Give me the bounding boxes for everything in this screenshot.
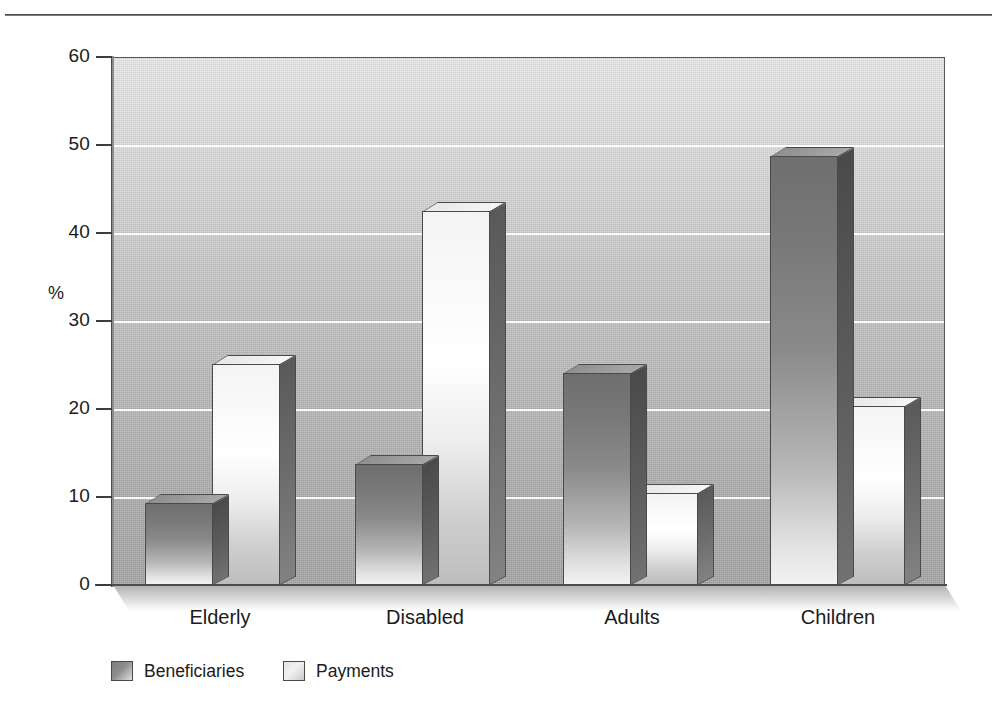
y-tick-20 <box>96 408 112 410</box>
legend-item-beneficiaries[interactable]: Beneficiaries <box>111 659 244 683</box>
x-label-elderly: Elderly <box>150 606 290 629</box>
y-tick-label-30: 30 <box>42 309 90 331</box>
y-tick-label-0: 0 <box>42 573 90 595</box>
y-tick-0 <box>96 584 112 586</box>
bar-side-face <box>213 495 229 585</box>
y-axis-title: % <box>40 283 72 304</box>
y-tick-50 <box>96 144 112 146</box>
bar-side-face <box>490 202 506 585</box>
bar-side-face <box>280 356 296 585</box>
y-tick-40 <box>96 232 112 234</box>
y-tick-label-10: 10 <box>42 485 90 507</box>
bar-chart-figure: 60 50 40 30 20 10 0 % Elderly Disabled A… <box>0 0 999 719</box>
top-divider-rule <box>5 14 992 16</box>
legend-swatch-payments <box>283 661 305 681</box>
y-tick-10 <box>96 496 112 498</box>
x-label-children: Children <box>768 606 908 629</box>
y-axis-tick-labels: 60 50 40 30 20 10 0 <box>36 0 90 719</box>
bar-side-face <box>423 455 439 585</box>
y-tick-label-50: 50 <box>42 133 90 155</box>
bar-children-beneficiaries[interactable] <box>770 156 838 585</box>
y-tick-label-20: 20 <box>42 397 90 419</box>
bar-disabled-beneficiaries[interactable] <box>355 464 423 585</box>
legend-label-payments: Payments <box>316 661 394 682</box>
bar-side-face <box>838 147 854 585</box>
bar-front-face <box>145 503 213 585</box>
y-tick-60 <box>96 56 112 58</box>
bar-front-face <box>770 156 838 585</box>
bar-side-face <box>905 398 921 585</box>
y-tick-label-40: 40 <box>42 221 90 243</box>
x-label-adults: Adults <box>562 606 702 629</box>
bar-side-face <box>698 484 714 585</box>
y-tick-label-60: 60 <box>42 45 90 67</box>
x-label-disabled: Disabled <box>355 606 495 629</box>
bar-front-face <box>563 373 631 585</box>
legend-label-beneficiaries: Beneficiaries <box>144 661 244 682</box>
y-tick-30 <box>96 320 112 322</box>
bar-adults-beneficiaries[interactable] <box>563 373 631 585</box>
legend-item-payments[interactable]: Payments <box>283 659 394 683</box>
legend-swatch-beneficiaries <box>111 661 133 681</box>
bar-side-face <box>631 364 647 585</box>
bar-elderly-beneficiaries[interactable] <box>145 503 213 585</box>
bar-front-face <box>355 464 423 585</box>
